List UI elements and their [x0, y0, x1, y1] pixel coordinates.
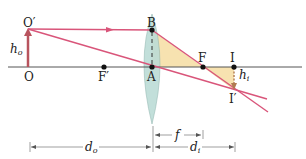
image-base-dot	[231, 64, 236, 69]
label-front-focus: F′	[98, 70, 109, 84]
label-image-base: I	[230, 51, 235, 65]
ray-arrow-icon	[106, 27, 114, 32]
label-image-tip: I′	[229, 92, 237, 106]
label-lens-center: A	[146, 70, 156, 84]
label-object-height: ho	[10, 42, 23, 57]
lens-diagram: O′ O F′ B A F I I′ ho hi f do di	[0, 0, 306, 159]
label-back-focus: F	[198, 51, 206, 65]
lens-center-dot	[149, 64, 154, 69]
label-object-tip: O′	[23, 16, 36, 30]
label-image-height: hi	[239, 68, 250, 83]
back-focus-dot	[200, 64, 205, 69]
label-lens-top: B	[147, 16, 156, 30]
label-object-base: O	[24, 70, 34, 84]
diagram-canvas: O′ O F′ B A F I I′ ho hi f do di	[0, 0, 306, 159]
triangle-fii	[203, 67, 234, 90]
front-focus-dot	[101, 64, 106, 69]
parallel-ray-incident	[28, 29, 152, 30]
